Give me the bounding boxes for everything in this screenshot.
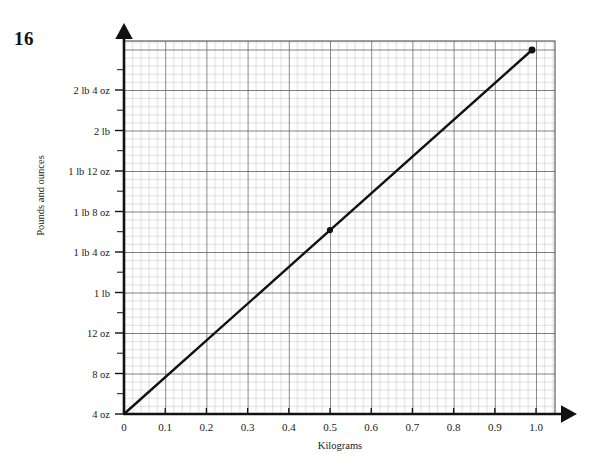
y-axis-ticks xyxy=(115,70,124,414)
data-point-marker xyxy=(529,47,536,54)
grid xyxy=(124,41,555,414)
conversion-graph-figure: 16 Pounds and ounces Kilograms 4 oz 8 oz… xyxy=(0,0,589,472)
data-point-marker xyxy=(327,227,333,233)
plot-area xyxy=(0,0,589,472)
